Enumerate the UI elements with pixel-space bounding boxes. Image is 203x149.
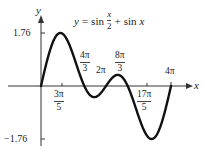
x-tick-label-2pi: 2π (96, 66, 106, 76)
y-axis-label: y (36, 5, 41, 16)
equation-label: y = sin x 2 + sin x (74, 10, 144, 31)
eq-sign: = (82, 15, 88, 27)
x-axis-label: x (194, 80, 199, 91)
eq-den: 2 (107, 22, 112, 31)
x-tick-label-8pi-3: 8π 3 (115, 51, 125, 73)
frac-num: 17π (137, 90, 151, 100)
frac-num: 4π (80, 51, 90, 61)
frac-den: 5 (142, 103, 147, 113)
y-tick-label-min: −1.76 (4, 134, 27, 144)
frac-num: 8π (115, 51, 125, 61)
frac-den: 3 (117, 64, 122, 74)
eq-plus: + (114, 15, 120, 27)
eq-lhs: y (74, 15, 79, 27)
x-tick-label-4pi-3: 4π 3 (80, 51, 90, 73)
frac-den: 5 (56, 103, 61, 113)
eq-fraction: x 2 (107, 10, 112, 31)
eq-fn1: sin (91, 15, 104, 27)
y-tick-label-max: 1.76 (13, 28, 31, 38)
x-axis-arrow-icon (186, 83, 193, 89)
x-tick-label-3pi-5: 3π 5 (54, 90, 64, 112)
x-tick-label-17pi-5: 17π 5 (137, 90, 151, 112)
frac-den: 3 (82, 64, 87, 74)
eq-num: x (107, 10, 111, 19)
frac-num: 3π (54, 90, 64, 100)
eq-fn2: sin (124, 15, 137, 27)
y-axis-arrow-icon (38, 15, 44, 23)
eq-var: x (140, 15, 145, 27)
x-tick-label-4pi: 4π (165, 67, 175, 77)
